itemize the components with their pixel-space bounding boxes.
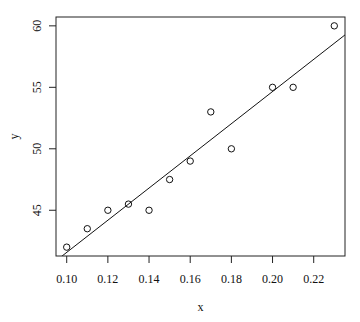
y-tick-label: 45 [30,204,44,216]
data-point [331,23,337,29]
data-point [290,84,296,90]
x-tick-label: 0.16 [180,272,201,286]
x-axis: 0.100.120.140.160.180.200.22 [56,256,324,286]
scatter-plot: 0.100.120.140.160.180.200.22 45505560 x … [0,0,360,322]
y-tick-label: 55 [30,81,44,93]
regression-line [56,35,345,261]
data-point [208,109,214,115]
x-tick-label: 0.18 [221,272,242,286]
data-point [84,226,90,232]
data-point [228,146,234,152]
y-tick-label: 60 [30,20,44,32]
x-tick-label: 0.14 [139,272,160,286]
data-point [187,158,193,164]
y-axis-title: y [7,134,21,140]
data-point [146,207,152,213]
x-tick-label: 0.10 [56,272,77,286]
regression-line-group [56,35,345,261]
y-axis: 45505560 [30,20,56,216]
data-points [64,23,338,251]
x-tick-label: 0.12 [97,272,118,286]
y-tick-label: 50 [30,143,44,155]
data-point [269,84,275,90]
plot-frame [56,17,345,256]
x-tick-label: 0.20 [262,272,283,286]
x-axis-title: x [198,300,204,314]
data-point [64,244,70,250]
data-point [105,207,111,213]
x-tick-label: 0.22 [303,272,324,286]
data-point [166,176,172,182]
